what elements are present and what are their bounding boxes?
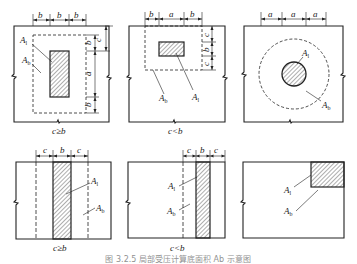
dim-label: b (201, 47, 211, 52)
dim-label: a (169, 9, 174, 19)
a1-label: Al (301, 48, 310, 59)
dim-label: b (57, 10, 62, 20)
dim-label: c (93, 38, 103, 42)
dim-label: c (187, 145, 191, 155)
ab-label: Ab (166, 206, 176, 217)
a1-area (196, 162, 210, 238)
panel-circle: a a a Al Ab (242, 9, 345, 123)
dim-label: b (74, 10, 79, 20)
a1-label: Al (90, 176, 99, 187)
dim-label: b (83, 40, 93, 45)
panel-rect-center: b b b c b a b Al Ab c≥b (12, 10, 113, 136)
a1-label: Al (19, 35, 28, 46)
dim-label: a (268, 9, 273, 19)
dim-label: c (214, 145, 218, 155)
dim-label: a (83, 71, 93, 76)
figure-caption: 图 3.2.5 局部受压计算底面积 Ab 示意图 (105, 254, 250, 264)
local-compression-diagram: b b b c b a b Al Ab c≥b b (0, 0, 357, 264)
dim-label: b (83, 102, 93, 107)
a1-area (159, 42, 184, 56)
panel-corner: Al Ab (241, 162, 344, 238)
ab-label: Ab (21, 55, 31, 66)
dim-label: c (201, 62, 211, 66)
panel-condition: c<b (170, 243, 185, 253)
a1-area (50, 51, 69, 97)
panel-strip-wide: c b c Al Ab c≥b (14, 145, 111, 253)
a1-label: Al (191, 92, 200, 103)
ab-label: Ab (158, 93, 168, 104)
panel-condition: c≥b (53, 243, 67, 253)
dim-label: a (313, 9, 318, 19)
dim-label: c (43, 145, 47, 155)
dim-label: b (149, 9, 154, 19)
a1-area (282, 62, 306, 86)
panel-strip-edge: c b c Al Ab c<b (126, 145, 225, 253)
dim-label: a (291, 9, 296, 19)
a1-area (53, 162, 71, 239)
dim-label: c (201, 33, 211, 37)
dim-label: b (190, 9, 195, 19)
dim-label: b (200, 145, 205, 155)
dim-label: b (38, 10, 43, 20)
panel-condition: c≥b (52, 126, 66, 136)
a1-area (311, 162, 344, 187)
a1-label: Al (167, 181, 176, 192)
panel-rect-wide: b a b c b c Ab Al c<b (127, 9, 227, 136)
dim-label: c (77, 145, 81, 155)
ab-label: Ab (283, 206, 293, 217)
panel-condition: c<b (168, 126, 183, 136)
dim-label: b (60, 145, 65, 155)
ab-label: Ab (321, 100, 331, 111)
ab-label: Ab (95, 203, 105, 214)
a1-label: Al (283, 185, 292, 196)
